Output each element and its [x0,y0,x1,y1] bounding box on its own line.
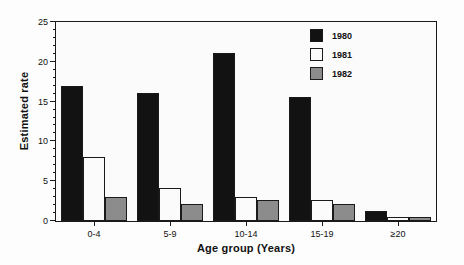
legend: 198019811982 [310,26,352,83]
y-tick-major [50,140,56,141]
y-tick-label: 15 [38,97,48,107]
y-tick-minor [53,45,57,46]
y-tick-minor [53,69,57,70]
bar [409,217,431,221]
y-tick-minor [53,53,57,54]
y-tick-minor [53,29,57,30]
bar [235,197,257,221]
x-tick [170,221,171,226]
y-tick-major [50,21,56,22]
bar [137,93,159,221]
y-tick-minor [53,148,57,149]
bar [213,53,235,221]
legend-swatch [310,29,323,42]
y-tick-minor [53,212,57,213]
y-axis-title: Estimated rate [12,0,36,222]
legend-label: 1980 [332,31,352,41]
legend-swatch [310,67,323,80]
plot-area: 0510152025 0-45-910-1415-19≥20 [55,21,437,222]
y-tick-label: 0 [43,216,48,226]
x-axis-title: Age group (Years) [55,242,437,254]
y-tick-major [50,61,56,62]
y-tick-label: 10 [38,136,48,146]
y-tick-minor [53,156,57,157]
y-tick-label: 25 [38,17,48,27]
y-tick-label: 5 [43,176,48,186]
y-tick-minor [53,93,57,94]
y-tick-minor [53,204,57,205]
bar [333,204,355,221]
x-tick [398,221,399,226]
y-tick-minor [53,37,57,38]
x-tick-label: 15-19 [310,229,333,239]
y-tick-minor [53,85,57,86]
y-tick-minor [53,196,57,197]
legend-item: 1980 [310,26,352,45]
bar [181,204,203,221]
x-tick [94,221,95,226]
y-tick-label: 20 [38,57,48,67]
bar [105,197,127,221]
legend-label: 1981 [332,50,352,60]
bar [365,211,387,221]
x-tick [246,221,247,226]
bar [61,86,83,221]
y-tick-minor [53,132,57,133]
x-tick-label: 10-14 [234,229,257,239]
bar [83,157,105,221]
y-tick-minor [53,188,57,189]
bar [289,97,311,221]
y-tick-minor [53,77,57,78]
legend-swatch [310,48,323,61]
y-tick-minor [53,124,57,125]
y-tick-major [50,101,56,102]
y-tick-major [50,180,56,181]
x-tick-label: ≥20 [391,229,406,239]
y-tick-minor [53,164,57,165]
chart-figure: Estimated rate 0510152025 0-45-910-1415-… [0,0,464,265]
legend-item: 1981 [310,45,352,64]
legend-label: 1982 [332,69,352,79]
bar [387,217,409,221]
x-tick [322,221,323,226]
y-tick-minor [53,109,57,110]
bar [257,200,279,221]
bar [159,188,181,221]
legend-item: 1982 [310,64,352,83]
y-tick-major [50,220,56,221]
y-tick-minor [53,117,57,118]
bar [311,200,333,221]
y-tick-minor [53,172,57,173]
x-tick-label: 5-9 [163,229,176,239]
x-tick-label: 0-4 [87,229,100,239]
